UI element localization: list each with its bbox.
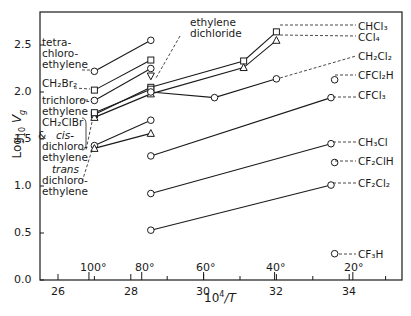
label-cf2cl2: CF₂Cl₂ bbox=[358, 178, 390, 189]
circle-marker-icon bbox=[91, 97, 98, 104]
series-line bbox=[94, 60, 150, 90]
label-cis-dichloroethylene: dichloro- ethylene bbox=[42, 141, 88, 163]
label-cfcl2h: CFCl₂H bbox=[358, 70, 394, 81]
circle-marker-icon bbox=[331, 250, 338, 257]
series-line bbox=[94, 89, 150, 113]
leader-ch2cl2 bbox=[280, 56, 356, 78]
circle-marker-icon bbox=[328, 140, 335, 147]
y-tick-0: 0.0 bbox=[14, 273, 32, 286]
series-line bbox=[94, 120, 150, 145]
x-tick-32: 32 bbox=[269, 285, 283, 298]
x-tick-34: 34 bbox=[342, 285, 356, 298]
ylabel-sub: 10 bbox=[18, 127, 27, 137]
circle-marker-icon bbox=[273, 76, 280, 83]
leader-ethylene-dichloride bbox=[156, 36, 180, 78]
x-tick-26: 26 bbox=[51, 285, 65, 298]
circle-marker-icon bbox=[148, 65, 155, 72]
y-tick-05: 0.5 bbox=[14, 226, 32, 239]
series-line bbox=[151, 98, 331, 156]
x-axis-label: 104/T bbox=[204, 290, 236, 305]
leader-ccl4 bbox=[280, 35, 356, 36]
label-tetrachloroethylene: tetra- chloro- ethylene bbox=[42, 37, 88, 70]
circle-marker-icon bbox=[148, 37, 155, 44]
circle-marker-icon bbox=[328, 94, 335, 101]
label-line: ethylene bbox=[42, 59, 88, 70]
circle-marker-icon bbox=[148, 89, 155, 96]
circle-marker-icon bbox=[331, 159, 338, 166]
label-ch2br2: CH₂Br₂ bbox=[42, 78, 77, 89]
label-cfcl3: CFCl₃ bbox=[358, 90, 386, 101]
circle-marker-icon bbox=[148, 153, 155, 160]
circle-marker-icon bbox=[211, 94, 218, 101]
y-tick-2: 2.0 bbox=[14, 85, 32, 98]
square-marker-icon bbox=[148, 57, 154, 63]
y-tick-25: 2.5 bbox=[14, 38, 32, 51]
series-line bbox=[94, 40, 150, 71]
temp-tick-80: 80° bbox=[135, 261, 155, 274]
series-layer bbox=[91, 29, 338, 257]
circle-marker-icon bbox=[148, 227, 155, 234]
ylabel-log: Log bbox=[10, 137, 24, 158]
y-tick-1: 1.0 bbox=[14, 179, 32, 192]
ylabel-var-sub: g bbox=[18, 110, 27, 115]
label-ch3cl: CH₃Cl bbox=[358, 137, 388, 148]
x-tick-28: 28 bbox=[124, 285, 138, 298]
temp-tick-100: 100° bbox=[80, 261, 107, 274]
y-axis-label: Log10 Vg bbox=[10, 110, 26, 159]
series-line bbox=[94, 69, 150, 101]
label-cf3h: CF₃H bbox=[358, 249, 383, 260]
series-line bbox=[94, 133, 150, 148]
series-line bbox=[94, 32, 276, 115]
label-ethylene-dichloride: ethylene dichloride bbox=[190, 17, 242, 39]
square-marker-icon bbox=[273, 29, 279, 35]
xlabel-base: 10 bbox=[204, 291, 219, 305]
triangle-marker-icon bbox=[273, 37, 280, 44]
temp-tick-60: 60° bbox=[196, 261, 216, 274]
label-ch2cl2: CH₂Cl₂ bbox=[358, 51, 392, 62]
triangle-marker-icon bbox=[147, 130, 154, 137]
temp-tick-40: 40° bbox=[266, 261, 286, 274]
series-line bbox=[94, 40, 276, 117]
triangle-down-marker-icon bbox=[147, 73, 154, 80]
label-line: ethylene bbox=[42, 186, 88, 197]
circle-marker-icon bbox=[148, 117, 155, 124]
label-trans-dichloroethylene: dichloro- ethylene bbox=[42, 175, 88, 197]
series-line bbox=[151, 144, 331, 194]
label-ch2clbr: CH₂ClBr bbox=[42, 117, 83, 128]
temp-tick-20: 20° bbox=[344, 261, 364, 274]
xlabel-tail: /T bbox=[224, 291, 235, 305]
series-line bbox=[151, 185, 331, 230]
label-line: dichloride bbox=[190, 28, 242, 39]
square-marker-icon bbox=[91, 110, 97, 116]
label-cf2clh: CF₂ClH bbox=[358, 156, 394, 167]
ylabel-var: V bbox=[10, 115, 24, 123]
circle-marker-icon bbox=[148, 190, 155, 197]
square-marker-icon bbox=[91, 87, 97, 93]
label-trichloroethylene: trichloro- ethylene bbox=[42, 95, 90, 117]
label-ccl4: CCl₄ bbox=[358, 32, 380, 43]
circle-marker-icon bbox=[331, 76, 338, 83]
label-line: ethylene bbox=[42, 152, 88, 163]
circle-marker-icon bbox=[91, 68, 98, 75]
